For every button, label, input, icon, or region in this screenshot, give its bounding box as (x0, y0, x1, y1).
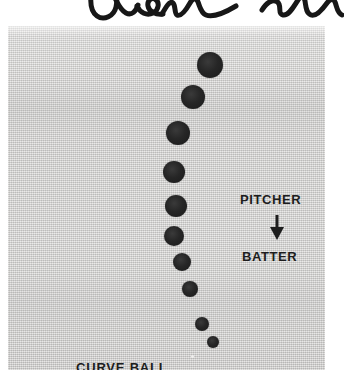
ball-image-6 (164, 226, 184, 246)
ball-image-10 (207, 336, 219, 348)
ball-image-1 (197, 52, 223, 78)
curve-ball-caption: CURVE BALL (76, 360, 168, 370)
ball-image-9 (195, 317, 209, 331)
batter-label: BATTER (242, 249, 297, 264)
ball-image-3 (166, 121, 190, 145)
ball-image-7 (173, 253, 191, 271)
ball-image-2 (181, 85, 205, 109)
handwritten-annotation (0, 0, 344, 28)
page-root: PITCHER BATTER CURVE BALL (0, 0, 344, 378)
ball-image-8 (182, 281, 198, 297)
pitcher-label: PITCHER (240, 192, 301, 207)
ball-image-5 (165, 195, 187, 217)
ball-image-4 (163, 161, 185, 183)
handwriting-ink-icon (0, 0, 344, 28)
arrow-down-icon (266, 215, 288, 241)
emulsion-speck (191, 355, 194, 358)
curve-ball-photograph: PITCHER BATTER CURVE BALL (8, 26, 325, 370)
